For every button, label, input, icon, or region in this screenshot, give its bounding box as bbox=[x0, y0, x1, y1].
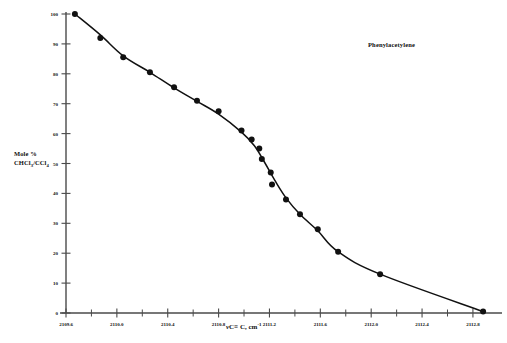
x-axis-tick-label: 2112.0 bbox=[364, 322, 378, 327]
y-axis-tick-label: 20 bbox=[53, 251, 59, 256]
data-point-marker bbox=[238, 128, 244, 134]
y-axis-tick-label: 70 bbox=[53, 102, 59, 107]
data-point-marker bbox=[268, 169, 274, 175]
data-series-line bbox=[75, 14, 483, 312]
y-axis-tick-label: 0 bbox=[56, 311, 59, 316]
data-point-marker bbox=[283, 196, 289, 202]
y-axis-tick-label: 100 bbox=[51, 12, 59, 17]
x-axis-tick-label: 2111.2 bbox=[263, 322, 277, 327]
y-axis-label-line1: Mole % bbox=[14, 150, 37, 157]
data-point-marker bbox=[335, 249, 341, 255]
chart-title: Phenylacetylene bbox=[368, 41, 415, 48]
data-point-marker bbox=[377, 271, 383, 277]
data-point-marker bbox=[147, 69, 153, 75]
y-axis-tick-label: 10 bbox=[53, 281, 59, 286]
data-point-marker bbox=[256, 146, 262, 152]
data-point-marker bbox=[97, 35, 103, 41]
y-axis-tick-label: 30 bbox=[53, 221, 59, 226]
x-axis-tick-label: 2110.4 bbox=[161, 322, 175, 327]
data-point-marker bbox=[72, 11, 78, 17]
y-axis-label-line2: CHCl3/CCl4 bbox=[14, 159, 49, 166]
y-axis-tick-label: 90 bbox=[53, 42, 59, 47]
data-point-marker bbox=[480, 309, 486, 315]
y-axis-label: Mole % CHCl3/CCl4 bbox=[14, 150, 70, 170]
x-axis-tick-label: 2112.8 bbox=[466, 322, 480, 327]
data-point-marker bbox=[249, 137, 255, 143]
data-point-marker bbox=[171, 84, 177, 90]
x-axis-label-exponent: -1 bbox=[257, 322, 261, 327]
x-axis-label: νC≡ C, cm-1 bbox=[226, 322, 261, 331]
x-axis-tick-label: 2110.0 bbox=[110, 322, 124, 327]
data-point-marker bbox=[120, 54, 126, 60]
data-point-marker bbox=[194, 98, 200, 104]
y-axis-tick-label: 80 bbox=[53, 72, 59, 77]
data-point-marker bbox=[297, 211, 303, 217]
chart-figure: 01020304050607080901002109.62110.02110.4… bbox=[0, 0, 507, 343]
x-axis-tick-label: 2111.6 bbox=[314, 322, 328, 327]
data-point-marker bbox=[259, 156, 265, 162]
data-point-marker bbox=[269, 181, 275, 187]
x-axis-tick-label: 2109.6 bbox=[59, 322, 73, 327]
x-axis-tick-label: 2112.4 bbox=[415, 322, 429, 327]
data-point-marker bbox=[216, 108, 222, 114]
y-axis-tick-label: 40 bbox=[53, 191, 59, 196]
data-point-marker bbox=[315, 226, 321, 232]
x-axis-label-rest: C≡ C, cm bbox=[229, 323, 257, 331]
scatter-plot-canvas: 01020304050607080901002109.62110.02110.4… bbox=[0, 0, 507, 343]
x-axis-tick-label: 2110.8 bbox=[212, 322, 226, 327]
y-axis-tick-label: 60 bbox=[53, 132, 59, 137]
